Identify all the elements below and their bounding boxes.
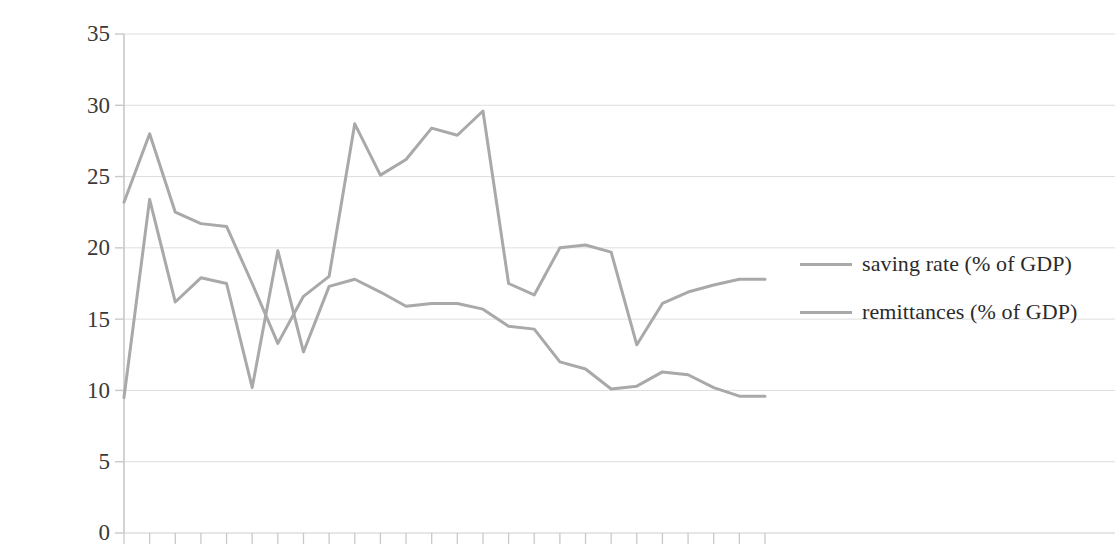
y-tick-label-30: 30 <box>62 94 110 117</box>
y-tick-label-15: 15 <box>62 308 110 331</box>
legend-swatch-saving-rate <box>800 263 852 266</box>
y-tick-label-20: 20 <box>62 236 110 259</box>
legend-swatch-remittances <box>800 311 852 314</box>
legend-item-saving-rate: saving rate (% of GDP) <box>800 240 1105 288</box>
x-axis-ticks-group <box>124 533 765 544</box>
chart-container: 35 30 25 20 15 10 5 0 saving rate (% of … <box>0 0 1115 554</box>
legend-label-saving-rate: saving rate (% of GDP) <box>862 251 1072 277</box>
legend-label-remittances: remittances (% of GDP) <box>862 299 1077 325</box>
series-line-remittances <box>124 111 765 345</box>
chart-legend: saving rate (% of GDP) remittances (% of… <box>800 240 1105 336</box>
series-line-saving-rate <box>124 199 765 397</box>
y-tick-label-10: 10 <box>62 379 110 402</box>
y-tick-label-35: 35 <box>62 22 110 45</box>
y-tick-label-25: 25 <box>62 165 110 188</box>
legend-item-remittances: remittances (% of GDP) <box>800 288 1105 336</box>
y-tick-label-5: 5 <box>62 450 110 473</box>
series-lines-group <box>124 111 765 398</box>
y-tick-label-0: 0 <box>62 521 110 544</box>
